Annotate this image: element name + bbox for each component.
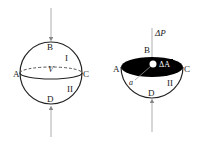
label-d: D [47, 94, 54, 104]
left-sphere-figure: B A C D I II V [13, 8, 89, 137]
label-b: B [47, 42, 53, 52]
label-b: B [144, 45, 150, 55]
label-a: A [113, 64, 120, 74]
label-a: A [13, 69, 20, 79]
label-region-ii: II [67, 84, 73, 94]
right-hemisphere-figure: ΔA ΔP B A C D II a [113, 28, 190, 132]
label-c: C [184, 64, 190, 74]
label-c: C [83, 69, 89, 79]
label-region-i: I [65, 53, 68, 63]
label-d: D [148, 88, 155, 98]
label-region-ii: II [167, 78, 173, 88]
label-volume-v: V [48, 64, 55, 74]
label-delta-a: ΔA [159, 60, 170, 69]
label-delta-p: ΔP [154, 28, 166, 38]
diagram-canvas: B A C D I II V ΔA ΔP B A C D II a [0, 0, 198, 148]
label-point-a: a [129, 78, 133, 87]
